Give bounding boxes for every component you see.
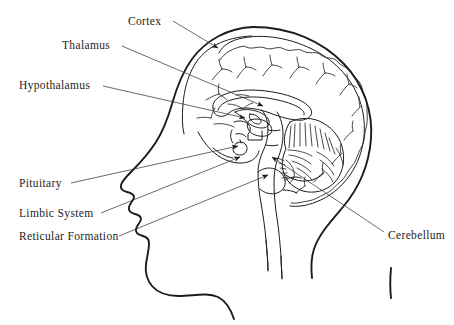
spinal-cord	[266, 240, 282, 279]
head-profile-outline	[121, 27, 253, 319]
label-limbic-system: Limbic System	[19, 208, 94, 220]
leader-pituitary	[71, 146, 238, 183]
leader-cortex	[173, 21, 218, 48]
leader-cerebellum	[272, 157, 384, 232]
pituitary-gland	[233, 140, 247, 155]
label-pituitary: Pituitary	[19, 178, 62, 190]
corpus-callosum	[213, 90, 312, 120]
label-thalamus: Thalamus	[62, 40, 110, 52]
leader-thalamus	[122, 46, 263, 106]
leader-hypothalamus	[103, 86, 245, 118]
leader-lines	[71, 21, 384, 236]
leader-reticular-formation	[119, 175, 268, 236]
limbic-system-outline	[198, 132, 259, 163]
label-hypothalamus: Hypothalamus	[19, 80, 90, 92]
label-cortex: Cortex	[128, 16, 161, 28]
cortical-gyri-folds	[197, 55, 360, 193]
label-reticular-formation: Reticular Formation	[19, 231, 119, 243]
cortex-gyri-ribbon	[220, 46, 367, 203]
label-cerebellum: Cerebellum	[388, 230, 445, 242]
brain-anatomy-figure: Cortex Thalamus Hypothalamus Pituitary L…	[0, 0, 454, 325]
skull-inner-outline	[182, 36, 252, 134]
skull-back-and-neck-outline	[253, 27, 391, 298]
